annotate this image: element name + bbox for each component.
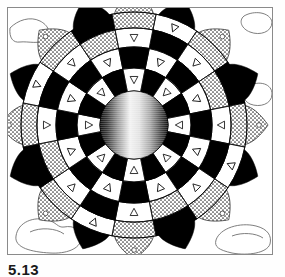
core-sphere-group bbox=[100, 91, 168, 159]
petal-circle-marker bbox=[132, 248, 137, 253]
ring-segment bbox=[56, 110, 78, 140]
figure-frame bbox=[7, 7, 273, 255]
petal-circle-marker bbox=[257, 123, 262, 128]
ring-segment bbox=[119, 181, 149, 203]
rosette-diagram bbox=[8, 8, 272, 254]
petal-circle-marker bbox=[8, 123, 11, 128]
ring-segment bbox=[211, 106, 232, 144]
ring-segment bbox=[21, 103, 39, 147]
petal-circle-marker bbox=[43, 34, 48, 39]
ring-segment bbox=[190, 110, 212, 140]
figure-caption: 5.13 bbox=[8, 262, 39, 277]
petal-circle-marker bbox=[220, 34, 225, 39]
petal-circle-marker bbox=[43, 211, 48, 216]
ring-segment bbox=[112, 220, 156, 238]
ring-segment bbox=[115, 202, 153, 223]
petal-circle-marker bbox=[220, 211, 225, 216]
figure-page: 5.13 bbox=[0, 0, 285, 277]
ring-segment bbox=[37, 106, 58, 144]
core-sphere-scanlines bbox=[100, 91, 168, 159]
ring-segment bbox=[229, 103, 247, 147]
ring-segment bbox=[112, 12, 156, 30]
ring-segment bbox=[119, 47, 149, 69]
ring-segment bbox=[115, 28, 153, 49]
